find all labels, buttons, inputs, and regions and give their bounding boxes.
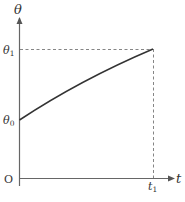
theta-curve: [20, 49, 154, 120]
y-axis-label: θ: [14, 2, 22, 17]
theta0-tick-label: θ0: [3, 114, 15, 128]
x-axis-label: t: [176, 171, 182, 186]
theta-vs-time-diagram: θ t O θ1 θ0 t1: [0, 0, 185, 202]
origin-label: O: [4, 173, 13, 186]
t1-tick-label: t1: [148, 180, 157, 194]
diagram-canvas: θ t O θ1 θ0 t1: [0, 0, 185, 202]
theta1-tick-label: θ1: [3, 44, 14, 58]
